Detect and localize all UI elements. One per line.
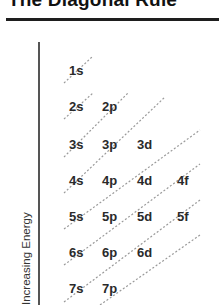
orbital-1s: 1s bbox=[69, 64, 83, 77]
orbital-3d: 3d bbox=[137, 138, 152, 151]
orbital-2s: 2s bbox=[69, 100, 83, 113]
orbital-4f: 4f bbox=[177, 174, 189, 187]
orbital-7s: 7s bbox=[69, 282, 83, 295]
orbital-2p: 2p bbox=[102, 100, 117, 113]
orbital-5f: 5f bbox=[177, 210, 189, 223]
orbital-6s: 6s bbox=[69, 246, 83, 259]
orbital-7p: 7p bbox=[102, 282, 117, 295]
orbital-6d: 6d bbox=[137, 246, 152, 259]
orbital-5s: 5s bbox=[69, 210, 83, 223]
orbital-4p: 4p bbox=[102, 174, 117, 187]
orbital-4s: 4s bbox=[69, 174, 83, 187]
orbital-3p: 3p bbox=[102, 138, 117, 151]
orbital-5p: 5p bbox=[102, 210, 117, 223]
orbital-6p: 6p bbox=[102, 246, 117, 259]
orbital-3s: 3s bbox=[69, 138, 83, 151]
orbital-4d: 4d bbox=[137, 174, 152, 187]
orbital-5d: 5d bbox=[137, 210, 152, 223]
